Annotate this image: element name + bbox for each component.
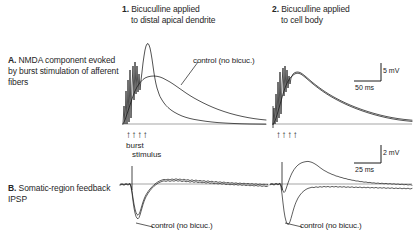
scale-bar-a: 5 mV 50 ms — [352, 62, 386, 90]
column-header-1-number: 1. — [122, 4, 129, 14]
stimulus-text-1-line1: burst — [126, 141, 144, 150]
stimulus-annotation-2: ↑↑↑↑ — [276, 131, 298, 140]
column-header-2-line2: to cell body — [272, 15, 350, 26]
scale-bar-b-time-label: 25 ms — [355, 166, 374, 173]
trace-panel-a2 — [268, 36, 414, 132]
scale-bar-b: 2 mV 25 ms — [352, 145, 386, 173]
row-label-a: A. NMDA component evoked by burst stimul… — [8, 55, 120, 89]
column-header-1: 1. Bicuculline applied to distal apical … — [122, 4, 215, 25]
scale-bar-a-lines — [352, 62, 386, 86]
column-header-2-number: 2. — [272, 4, 279, 14]
trace-a2-control — [273, 73, 412, 124]
trace-b1-control — [120, 180, 268, 218]
stimulus-arrows-2: ↑↑↑↑ — [276, 131, 298, 140]
scale-bar-a-voltage-label: 5 mV — [383, 67, 399, 74]
stimulus-annotation-1: ↑↑↑↑ burst stimulus — [126, 131, 161, 159]
annotation-control-a1: control (no bicuc.) — [193, 56, 255, 65]
stimulus-text-1-line2: stimulus — [126, 150, 161, 159]
annotation-control-b1: control (no bicuc.) — [151, 221, 213, 230]
row-label-b: B. Somatic-region feedback IPSP — [8, 183, 120, 205]
scale-bar-a-time-label: 50 ms — [355, 84, 374, 91]
row-label-b-text: Somatic-region feedback IPSP — [8, 183, 110, 204]
figure-panel: 1. Bicuculline applied to distal apical … — [0, 0, 416, 244]
trace-b2-control — [270, 184, 412, 225]
column-header-2: 2. Bicuculline applied to cell body — [272, 4, 350, 25]
column-header-1-line2: to distal apical dendrite — [122, 15, 215, 26]
row-label-a-text: NMDA component evoked by burst stimulati… — [8, 55, 119, 87]
scale-bar-b-voltage-label: 2 mV — [383, 149, 399, 156]
stimulus-text-1: burst stimulus — [126, 141, 161, 159]
annotation-control-b2: control (no bicuc.) — [300, 221, 362, 230]
stimulus-arrows-1: ↑↑↑↑ — [126, 131, 161, 140]
column-header-2-line1: Bicuculline applied — [279, 4, 350, 14]
column-header-1-line1: Bicuculline applied — [129, 4, 200, 14]
